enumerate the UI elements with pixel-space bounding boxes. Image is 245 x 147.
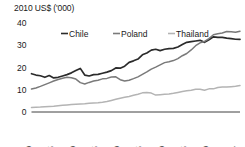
- legend-label-poland: Poland: [121, 29, 148, 39]
- x-tick-label: 1990: [112, 146, 122, 147]
- y-tick-label: 30: [17, 40, 27, 50]
- y-tick-label: 10: [17, 85, 27, 95]
- x-tick-label: 1995: [134, 146, 144, 147]
- x-tick-label: 1985: [90, 146, 100, 147]
- series-line-chile: [32, 37, 241, 78]
- x-axis-tick-labels: 1970197519801985199019952000200520102017: [24, 146, 243, 147]
- data-series-group: [32, 31, 241, 107]
- x-tick-label: 2010: [201, 146, 211, 147]
- legend-label-chile: Chile: [69, 29, 89, 39]
- line-chart-svg: 010203040 197019751980198519901995200020…: [0, 0, 245, 147]
- y-axis-tick-labels: 010203040: [17, 18, 27, 117]
- x-tick-label: 2000: [157, 146, 167, 147]
- legend-label-thailand: Thailand: [176, 29, 209, 39]
- x-tick-label: 1980: [68, 146, 78, 147]
- chart-legend: ChilePolandThailand: [61, 29, 209, 39]
- chart-container: 2010 US$ ('000) 010203040 19701975198019…: [0, 0, 245, 147]
- y-tick-label: 20: [17, 63, 27, 73]
- x-tick-label: 1970: [24, 146, 34, 147]
- x-tick-label: 2017: [232, 146, 242, 147]
- x-tick-label: 2005: [179, 146, 189, 147]
- y-tick-label: 40: [17, 18, 27, 28]
- x-tick-label: 1975: [46, 146, 56, 147]
- y-tick-label: 0: [22, 107, 27, 117]
- series-line-thailand: [32, 86, 241, 108]
